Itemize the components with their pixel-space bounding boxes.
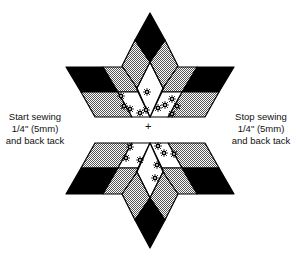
diagram-stage: Start sewing 1/4" (5mm) and back tack + … — [0, 0, 296, 260]
stop-sewing-label: Stop sewing 1/4" (5mm) and back tack — [228, 111, 294, 147]
start-label-line3: and back tack — [2, 135, 68, 147]
stop-label-line1: Stop sewing — [228, 111, 294, 123]
start-label-line1: Start sewing — [2, 111, 68, 123]
center-registration-mark: + — [145, 121, 151, 132]
start-label-line2: 1/4" (5mm) — [2, 123, 68, 135]
stop-label-line2: 1/4" (5mm) — [228, 123, 294, 135]
bottom-half-star — [66, 143, 234, 248]
top-half-star — [66, 13, 234, 117]
start-sewing-label: Start sewing 1/4" (5mm) and back tack — [2, 111, 68, 147]
stop-label-line3: and back tack — [228, 135, 294, 147]
